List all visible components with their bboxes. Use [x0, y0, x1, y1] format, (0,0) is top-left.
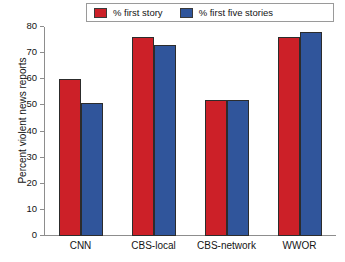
y-axis-tick-label: 40: [26, 125, 37, 136]
y-axis-tick-label: 50: [26, 98, 37, 109]
bar: [81, 103, 103, 236]
bar-group: [44, 27, 117, 236]
legend-label: % first story: [113, 8, 163, 18]
bar: [154, 45, 176, 236]
y-axis-tick-label: 20: [26, 177, 37, 188]
x-axis-tick-label: WWOR: [263, 240, 336, 251]
bar-chart-figure: % first story% first five stories Percen…: [0, 0, 345, 262]
y-axis-tick-label: 30: [26, 151, 37, 162]
bar: [300, 32, 322, 236]
legend-swatch-icon: [180, 8, 193, 18]
bar-group: [263, 27, 336, 236]
y-axis-tick-label: 70: [26, 46, 37, 57]
bar: [278, 37, 300, 236]
bar: [227, 100, 249, 236]
chart-legend: % first story% first five stories: [86, 3, 334, 22]
bar: [205, 100, 227, 236]
y-axis-tick-label: 80: [26, 20, 37, 31]
bar-group: [117, 27, 190, 236]
x-axis-tick-label: CBS-network: [190, 240, 263, 251]
bar: [132, 37, 154, 236]
plot-area: 01020304050607080 CNNCBS-localCBS-networ…: [44, 27, 336, 236]
x-axis-tick-label: CNN: [44, 240, 117, 251]
legend-label: % first five stories: [199, 8, 273, 18]
y-axis-tick-label: 10: [26, 203, 37, 214]
legend-entry: % first five stories: [180, 8, 273, 18]
y-axis-tick-label: 60: [26, 72, 37, 83]
legend-entry: % first story: [94, 8, 163, 18]
y-axis-tick-label: 0: [32, 229, 37, 240]
bar: [59, 79, 81, 236]
bar-series-container: [44, 27, 336, 236]
bar-group: [190, 27, 263, 236]
legend-swatch-icon: [94, 8, 107, 18]
x-axis-tick-label: CBS-local: [117, 240, 190, 251]
